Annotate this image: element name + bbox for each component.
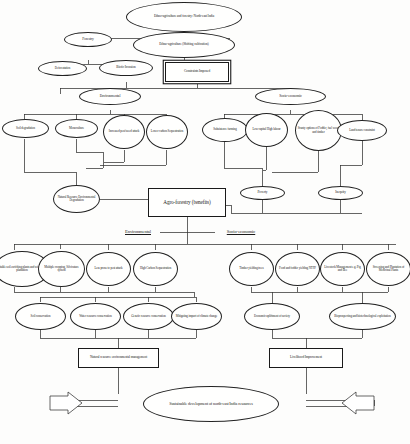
node-deforestation[interactable]: Deforestation [38,61,87,76]
node-forestry[interactable]: Forestry [64,32,112,47]
node-root[interactable]: Ethno-agriculture and forestry: North-ea… [126,2,242,32]
node-genetic-resource-conservation[interactable]: Genetic resource conservation [123,303,174,330]
node-natural-resource-degradation[interactable]: Natural Resource Environmental Degradati… [53,185,100,213]
node-agroforestry-benefits[interactable]: Agro-forestry (benefits) [148,188,226,217]
node-scanty-options[interactable]: Scanty options of Fodder, fuel wood and … [295,110,342,151]
node-inequity[interactable]: Inequity [318,186,363,200]
node-lower-carbon-sequestration[interactable]: Lower carbon Sequestration [146,115,188,149]
node-constraints-imposed[interactable]: Constraints Imposed [165,62,229,82]
label-environmental-branch: Environmental [110,227,166,237]
node-low-capital-high-labour[interactable]: Low capital High labour [245,113,288,147]
node-multiple-cropping[interactable]: Multiple cropping, Silvicature system [38,251,85,287]
node-less-prone-pest-attack[interactable]: Less prone to pest attack [86,252,131,286]
node-ethno-agriculture[interactable]: Ethno-agriculture (Shifting cultivation) [133,32,235,58]
node-livestock-management[interactable]: Livestock Management e.g. Pig and Bee [320,252,365,286]
node-sustainable-development[interactable]: Sustainable development of north-east In… [143,386,279,422]
node-bioprospecting[interactable]: Bioprospecting and biotechnological expl… [329,303,396,330]
label-socio-economic-branch: Socio-economic [210,227,272,237]
node-subsistence-farming[interactable]: Subsistence farming [202,118,248,142]
node-socio-economic-top[interactable]: Socio-economic [255,88,326,105]
node-increased-pest-attack[interactable]: Increased pest/weed attack [103,115,145,149]
diagram-canvas: Ethno-agriculture and forestry: North-ea… [0,0,410,444]
node-natural-resource-management[interactable]: Natural resource environmental managemen… [78,348,159,368]
node-biotic-invasion[interactable]: Biotic Invasion [99,60,153,76]
node-water-resource-conservation[interactable]: Water resource conservation [70,303,121,330]
node-mitigating-climate-change[interactable]: Mitigating impact of climate change [171,303,222,330]
node-high-carbon-sequestration[interactable]: High Carbon Sequestration [133,252,178,286]
node-soil-degradation[interactable]: Soil degradation [2,119,49,138]
node-medicinal-plants[interactable]: Screening and Plantation of Medicinal Pl… [366,252,410,286]
node-economic-upliftment[interactable]: Economic upliftment of society [244,303,300,330]
arrow-left-to-center [50,392,82,414]
node-timber-yielding-trees[interactable]: Timber yielding trees [229,252,274,286]
node-environmental-top[interactable]: Environmental [79,88,141,105]
node-monoculture[interactable]: Monoculture [55,119,98,138]
node-livelihood-improvement[interactable]: Livelihood Improvement [269,348,343,368]
arrow-right-to-center [342,392,374,414]
node-land-tenure-constraint[interactable]: Land tenure constraint [337,120,387,141]
node-food-fodder-ntfp[interactable]: Food and fodder yielding NTFP [275,252,320,286]
node-poverty[interactable]: Poverty [240,186,285,200]
node-soil-conservation[interactable]: Soil conservation [15,303,66,330]
